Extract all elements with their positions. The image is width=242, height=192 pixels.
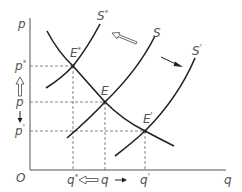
supply-decrease-hollow-arrow-icon xyxy=(112,33,137,45)
price-down-arrow-icon xyxy=(18,111,23,123)
label-p: p xyxy=(15,95,24,109)
label-q-star: q* xyxy=(67,173,79,187)
point-e-prime xyxy=(143,129,146,132)
x-axis-label: q xyxy=(224,173,232,187)
label-s-prime: S' xyxy=(192,44,202,58)
point-e xyxy=(103,100,106,103)
label-q-prime: q' xyxy=(140,173,150,187)
quantity-up-arrow-icon xyxy=(115,178,127,183)
point-e-star xyxy=(71,64,74,67)
label-e: E xyxy=(101,84,109,98)
axes: p q O xyxy=(16,17,232,187)
label-s-star: S* xyxy=(97,9,109,23)
supply-curve-s-prime xyxy=(115,58,195,156)
quantity-down-hollow-arrow-icon xyxy=(79,176,98,184)
supply-demand-diagram: p q O S* S S' E* E E' p* p p' q* q q' xyxy=(0,0,242,192)
y-axis-label: p xyxy=(17,17,26,31)
origin-label: O xyxy=(16,171,25,185)
label-p-star: p* xyxy=(14,59,27,73)
label-p-prime: p' xyxy=(14,124,25,138)
label-s: S xyxy=(153,26,161,40)
label-q: q xyxy=(101,173,109,187)
supply-increase-arrow-icon xyxy=(161,57,183,67)
demand-curve xyxy=(47,31,174,146)
price-up-hollow-arrow-icon xyxy=(16,77,24,96)
